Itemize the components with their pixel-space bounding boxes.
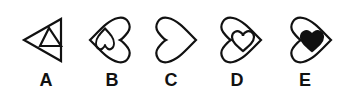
option-e-shape (291, 18, 331, 63)
outer-heart-icon (156, 18, 196, 63)
option-label-d: D (225, 70, 249, 90)
option-b-shape (90, 18, 130, 63)
option-d-shape (221, 18, 261, 63)
inner-filled-heart-icon (301, 31, 323, 51)
option-c-shape (156, 18, 196, 63)
option-label-e: E (293, 70, 317, 90)
option-label-c: C (159, 70, 183, 90)
option-label-a: A (34, 70, 58, 90)
inner-outline-heart-icon (232, 31, 254, 51)
outer-heart-icon (221, 18, 261, 63)
option-a-shape (24, 19, 61, 61)
option-label-b: B (100, 70, 124, 90)
inner-triangle-icon (40, 28, 61, 46)
answer-options-figure (0, 0, 343, 108)
